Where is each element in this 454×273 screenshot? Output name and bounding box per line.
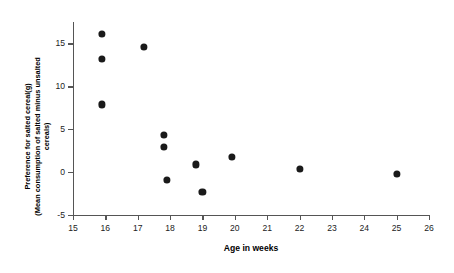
data-point — [160, 132, 167, 139]
x-axis-tick — [73, 215, 74, 220]
x-axis-tick — [429, 215, 430, 220]
y-axis-tick — [68, 86, 73, 87]
data-point — [228, 153, 235, 160]
y-axis-tick-label: -5 — [57, 210, 65, 220]
scatter-chart: Preference for salted cereal(g) (Mean co… — [0, 0, 454, 273]
data-point — [160, 144, 167, 151]
x-axis-tick — [300, 215, 301, 220]
y-axis-tick — [68, 172, 73, 173]
x-axis-tick — [235, 215, 236, 220]
x-axis-tick-label: 23 — [327, 223, 337, 233]
data-point — [99, 55, 106, 62]
plot-area: -5051015151617181920212223242526 — [73, 22, 429, 215]
x-axis-tick — [170, 215, 171, 220]
data-point — [296, 165, 303, 172]
y-axis-tick-label: 15 — [55, 38, 65, 48]
x-axis-tick-label: 20 — [230, 223, 240, 233]
data-point — [99, 30, 106, 37]
x-axis-tick-label: 16 — [101, 223, 111, 233]
y-axis-tick-label: 0 — [60, 167, 65, 177]
x-axis-title: Age in weeks — [73, 243, 429, 253]
x-axis-tick-label: 24 — [359, 223, 369, 233]
x-axis-tick-label: 21 — [262, 223, 272, 233]
data-point — [163, 176, 170, 183]
y-axis-line — [73, 22, 74, 215]
y-axis-tick-label: 10 — [55, 81, 65, 91]
y-axis-tick — [68, 43, 73, 44]
x-axis-tick — [267, 215, 268, 220]
x-axis-tick — [332, 215, 333, 220]
y-axis-title: Preference for salted cereal(g) (Mean co… — [14, 0, 60, 273]
x-axis-line — [73, 215, 429, 216]
x-axis-tick — [202, 215, 203, 220]
x-axis-tick-label: 19 — [198, 223, 208, 233]
x-axis-tick — [364, 215, 365, 220]
y-axis-title-line3: cereals) — [42, 57, 52, 216]
x-axis-tick-label: 17 — [133, 223, 143, 233]
data-point — [99, 101, 106, 108]
x-axis-tick-label: 26 — [424, 223, 434, 233]
x-axis-tick — [105, 215, 106, 220]
y-axis-title-line1: Preference for salted cereal(g) — [23, 83, 32, 189]
x-axis-tick-label: 15 — [68, 223, 78, 233]
data-point — [192, 161, 199, 168]
x-axis-tick — [138, 215, 139, 220]
x-axis-tick — [397, 215, 398, 220]
y-axis-tick — [68, 129, 73, 130]
x-axis-tick-label: 25 — [392, 223, 402, 233]
data-point — [393, 170, 400, 177]
x-axis-tick-label: 22 — [295, 223, 305, 233]
data-point — [199, 188, 206, 195]
y-axis-tick-label: 5 — [60, 124, 65, 134]
data-point — [141, 43, 148, 50]
x-axis-tick-label: 18 — [165, 223, 175, 233]
y-axis-title-line2: (Mean consumption of salted minus unsalt… — [32, 57, 42, 216]
